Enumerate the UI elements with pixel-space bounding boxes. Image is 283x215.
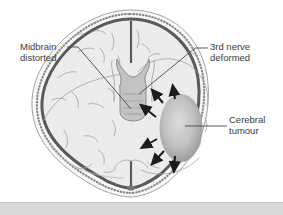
brain-cross-section-drawing (0, 0, 283, 215)
bottom-edge-bar (0, 202, 283, 215)
third-nerve-deformed-label: 3rd nerve deformed (210, 41, 264, 63)
figure-brain-tumour-diagram: Midbrain distorted 3rd nerve deformed Ce… (0, 0, 283, 215)
midbrain-distorted-label: Midbrain distorted (20, 41, 70, 63)
cerebral-tumour-shape (160, 94, 203, 162)
cerebral-tumour-label: Cerebral tumour (229, 114, 279, 136)
